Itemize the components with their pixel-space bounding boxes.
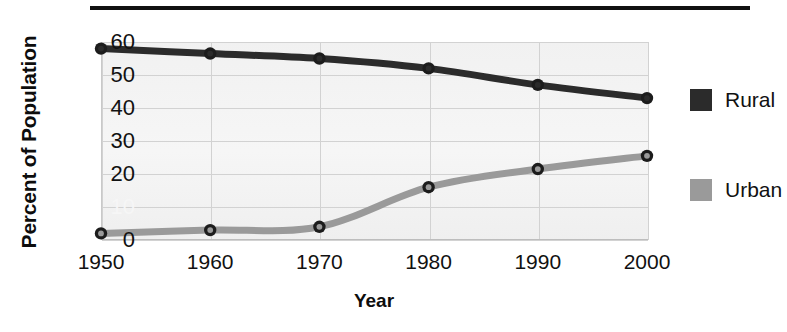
top-divider-rule bbox=[90, 6, 750, 10]
data-point-core-urban-1990 bbox=[535, 166, 541, 172]
data-point-core-rural-1960 bbox=[207, 51, 213, 57]
legend-label-rural: Rural bbox=[725, 88, 775, 112]
gridline-x-2000 bbox=[648, 42, 649, 240]
series-overlay bbox=[101, 42, 647, 240]
data-point-core-urban-2000 bbox=[644, 153, 650, 159]
data-point-core-rural-1980 bbox=[426, 66, 432, 72]
y-tick-label-60: 60 bbox=[79, 29, 135, 55]
x-tick-label-1970: 1970 bbox=[276, 250, 362, 274]
y-tick-label-20: 20 bbox=[79, 161, 135, 187]
x-tick-label-1980: 1980 bbox=[386, 250, 472, 274]
series-line-rural bbox=[101, 49, 647, 99]
y-tick-label-50: 50 bbox=[79, 62, 135, 88]
y-tick-label-10: 10 bbox=[79, 194, 135, 220]
legend-item-rural[interactable]: Rural bbox=[690, 86, 787, 114]
chart-legend: RuralUrban bbox=[690, 86, 787, 204]
data-point-core-rural-2000 bbox=[644, 95, 650, 101]
data-point-core-urban-1960 bbox=[207, 227, 213, 233]
data-point-core-urban-1970 bbox=[317, 224, 323, 230]
x-tick-label-1990: 1990 bbox=[495, 250, 581, 274]
gridline-y-0 bbox=[102, 240, 648, 241]
legend-swatch-urban bbox=[690, 179, 712, 201]
chart-figure: Percent of Population 0102030405060 1950… bbox=[0, 0, 787, 332]
legend-swatch-rural bbox=[690, 89, 712, 111]
x-axis-title: Year bbox=[101, 290, 647, 312]
data-point-core-rural-1990 bbox=[535, 82, 541, 88]
data-point-core-rural-1970 bbox=[317, 56, 323, 62]
legend-item-urban[interactable]: Urban bbox=[690, 176, 787, 204]
series-line-urban bbox=[101, 156, 647, 234]
y-axis-title: Percent of Population bbox=[17, 17, 41, 267]
legend-label-urban: Urban bbox=[725, 178, 782, 202]
x-tick-label-1960: 1960 bbox=[167, 250, 253, 274]
y-tick-label-30: 30 bbox=[79, 128, 135, 154]
y-tick-label-40: 40 bbox=[79, 95, 135, 121]
x-tick-label-1950: 1950 bbox=[58, 250, 144, 274]
data-point-core-urban-1980 bbox=[426, 184, 432, 190]
x-tick-label-2000: 2000 bbox=[604, 250, 690, 274]
